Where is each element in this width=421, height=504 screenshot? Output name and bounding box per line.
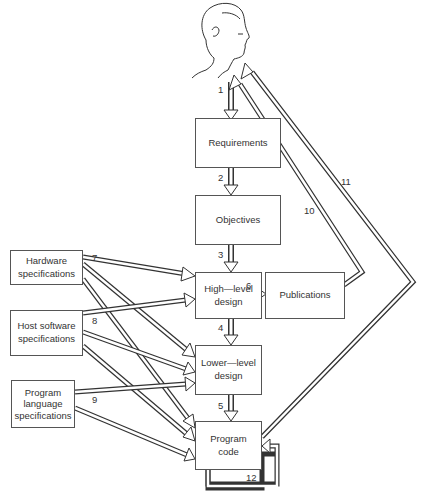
box-high-level-design: High—level design — [195, 272, 262, 319]
box-host-software-specifications: Host software specifications — [10, 310, 83, 356]
edge-label-8: 8 — [92, 315, 97, 326]
box-label-line2: code — [218, 446, 239, 459]
box-label: Requirements — [208, 137, 267, 150]
diagram-canvas: Requirements Objectives High—level desig… — [0, 0, 421, 504]
edge-label-10: 10 — [304, 205, 315, 216]
edge-label-7: 7 — [92, 252, 97, 263]
box-lower-level-design: Lower—level design — [195, 345, 262, 395]
box-hardware-specifications: Hardware specifications — [10, 250, 83, 285]
edge-label-1: 1 — [218, 84, 223, 95]
box-label: Objectives — [216, 214, 260, 227]
box-label-line1: Program — [210, 433, 246, 446]
box-label-line2: design — [215, 296, 243, 309]
box-requirements: Requirements — [195, 118, 281, 168]
edge-label-4: 4 — [218, 322, 223, 333]
edge-label-5: 5 — [218, 400, 223, 411]
box-label-line2: specifications — [18, 333, 75, 346]
box-program-language-specifications: Program language specifications — [11, 380, 75, 428]
box-label-line1: Program — [25, 387, 61, 398]
edge-label-3: 3 — [218, 249, 223, 260]
box-label: Publications — [279, 289, 330, 302]
box-program-code: Program code — [195, 421, 262, 470]
box-label-line1: Host software — [17, 320, 75, 333]
edge-label-9: 9 — [92, 394, 97, 405]
box-label-line1: Hardware — [26, 255, 67, 268]
box-label-line2: design — [215, 370, 243, 383]
box-publications: Publications — [265, 272, 345, 319]
head-icon — [192, 3, 249, 78]
edge-label-2: 2 — [218, 172, 223, 183]
box-label-line2: specifications — [18, 268, 75, 281]
edge-label-6: 6 — [246, 280, 251, 291]
edge-label-12: 12 — [246, 472, 257, 483]
box-label-line3: specifications — [14, 410, 71, 421]
box-objectives: Objectives — [195, 195, 281, 245]
box-label-line2: language — [23, 398, 62, 409]
box-label-line1: Lower—level — [201, 357, 256, 370]
edge-label-11: 11 — [341, 176, 351, 187]
